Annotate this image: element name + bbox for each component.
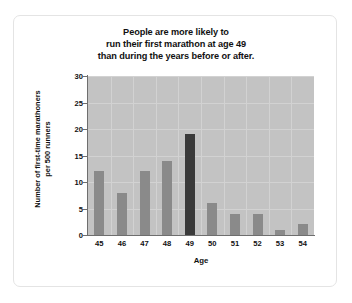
- y-tick-mark-10: [83, 182, 87, 183]
- gridline-vertical: [156, 76, 157, 235]
- y-axis-title-line-2: per 500 runners: [43, 90, 53, 207]
- bar-age-45: [94, 171, 104, 235]
- y-axis-title-line-1: Number of first-time marathoners: [33, 90, 43, 207]
- x-tick-label-50: 50: [208, 239, 216, 248]
- y-tick-mark-20: [83, 129, 87, 130]
- plot-area: [88, 76, 314, 235]
- y-tick-label-10: 10: [61, 178, 83, 187]
- x-tick-label-49: 49: [185, 239, 193, 248]
- y-tick-mark-15: [83, 156, 87, 157]
- gridline-vertical: [178, 76, 179, 235]
- x-tick-label-51: 51: [231, 239, 239, 248]
- gridline-vertical: [291, 76, 292, 235]
- x-tick-label-52: 52: [253, 239, 261, 248]
- bar-age-51: [230, 214, 240, 235]
- x-axis-line: [87, 235, 315, 236]
- y-tick-label-5: 5: [61, 204, 83, 213]
- bar-age-52: [253, 214, 263, 235]
- gridline-vertical: [246, 76, 247, 235]
- gridline-vertical: [224, 76, 225, 235]
- gridline-vertical: [269, 76, 270, 235]
- x-tick-label-46: 46: [118, 239, 126, 248]
- bar-age-49: [185, 134, 195, 235]
- x-axis-title: Age: [88, 256, 314, 265]
- x-tick-label-47: 47: [140, 239, 148, 248]
- x-tick-label-54: 54: [298, 239, 306, 248]
- gridline-vertical: [111, 76, 112, 235]
- y-tick-label-20: 20: [61, 125, 83, 134]
- y-tick-label-25: 25: [61, 98, 83, 107]
- y-tick-mark-0: [83, 235, 87, 236]
- x-tick-label-45: 45: [95, 239, 103, 248]
- chart-card: People are more likely to run their firs…: [13, 15, 337, 287]
- bar-age-50: [207, 203, 217, 235]
- y-tick-label-30: 30: [61, 72, 83, 81]
- gridline-vertical: [201, 76, 202, 235]
- bar-age-54: [298, 224, 308, 235]
- y-tick-mark-25: [83, 103, 87, 104]
- bar-age-46: [117, 193, 127, 235]
- gridline-vertical: [133, 76, 134, 235]
- x-tick-label-53: 53: [276, 239, 284, 248]
- bar-age-47: [140, 171, 150, 235]
- y-tick-label-15: 15: [61, 151, 83, 160]
- bar-age-48: [162, 161, 172, 235]
- y-axis-line: [87, 75, 88, 236]
- y-axis-tick-labels: 051015202530: [57, 16, 83, 286]
- y-tick-label-0: 0: [61, 231, 83, 240]
- y-tick-mark-5: [83, 209, 87, 210]
- y-axis-title: Number of first-time marathoners per 500…: [28, 61, 58, 236]
- y-tick-mark-30: [83, 76, 87, 77]
- x-tick-label-48: 48: [163, 239, 171, 248]
